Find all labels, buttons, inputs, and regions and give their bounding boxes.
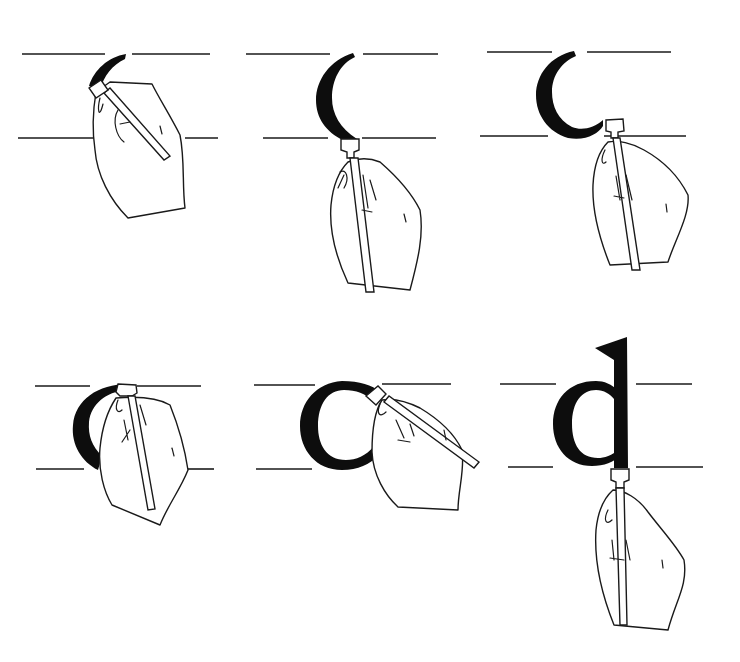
ink-stroke (536, 51, 603, 139)
hand-with-pen-icon (89, 80, 185, 218)
ink-stroke-bowl (553, 381, 620, 466)
ink-stroke (316, 53, 357, 140)
hand-with-pen-icon (331, 139, 422, 292)
guide-lines (480, 52, 686, 136)
hand-with-pen-icon (366, 386, 479, 510)
panel-step-3 (480, 51, 688, 270)
hand-with-pen-icon (100, 384, 188, 525)
panel-step-2 (246, 53, 438, 292)
ink-stroke-stem (595, 337, 628, 468)
panel-step-6 (500, 337, 703, 630)
panel-step-4 (35, 384, 214, 525)
calligraphy-illustration (0, 0, 740, 662)
panel-step-5 (254, 381, 479, 510)
hand-with-pen-icon (593, 119, 688, 270)
guide-lines (500, 384, 703, 467)
hand-with-pen-icon (596, 469, 685, 630)
panel-step-1 (18, 54, 218, 218)
